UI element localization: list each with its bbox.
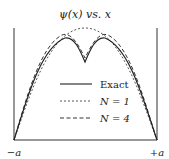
legend-label-exact: Exact [100, 79, 129, 90]
chart-title: ψ(x) vs. x [59, 8, 112, 21]
legend: Exact N = 1 N = 4 [60, 79, 130, 124]
x-tick-left: −a [7, 147, 21, 158]
legend-label-n4: N = 4 [99, 113, 130, 124]
wavefunction-chart: ψ(x) vs. x Exact N = 1 N = 4 −a +a [0, 0, 169, 159]
x-tick-right: +a [150, 147, 164, 158]
series-n4-curve [14, 34, 157, 140]
legend-label-n1: N = 1 [99, 96, 130, 107]
series-exact-curve [14, 38, 157, 140]
